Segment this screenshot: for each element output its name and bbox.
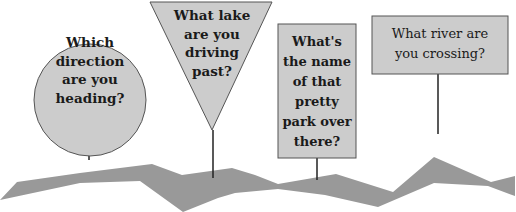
text-line: of that <box>278 72 356 92</box>
road-shape <box>0 157 515 212</box>
text-line: What's <box>278 32 356 52</box>
text-line: park over <box>278 112 356 132</box>
text-line: driving <box>162 43 262 62</box>
text-line: heading? <box>40 89 140 108</box>
river-sign-text: What river are you crossing? <box>372 24 508 64</box>
triangle-sign-text: What lake are you driving past? <box>162 6 262 80</box>
text-line: there? <box>278 132 356 152</box>
text-line: What river are <box>372 24 508 44</box>
text-line: pretty <box>278 92 356 112</box>
text-line: the name <box>278 52 356 72</box>
circle-sign-text: Which direction are you heading? <box>40 33 140 107</box>
text-line: are you <box>162 25 262 44</box>
text-line: What lake <box>162 6 262 25</box>
text-line: you crossing? <box>372 44 508 64</box>
road-sign-diagram: Which direction are you heading? What la… <box>0 0 516 212</box>
text-line: past? <box>162 62 262 81</box>
park-sign-text: What's the name of that pretty park over… <box>278 32 356 152</box>
text-line: direction <box>40 52 140 71</box>
text-line: Which <box>40 33 140 52</box>
text-line: are you <box>40 70 140 89</box>
